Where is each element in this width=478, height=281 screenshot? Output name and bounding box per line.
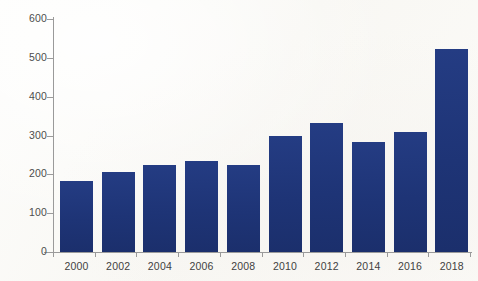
x-axis-tick bbox=[95, 252, 96, 257]
bar bbox=[60, 181, 93, 252]
x-axis-tick-label: 2014 bbox=[346, 260, 390, 272]
bar bbox=[435, 49, 468, 252]
x-axis-tick bbox=[220, 252, 221, 257]
bar bbox=[227, 165, 260, 252]
bar bbox=[352, 142, 385, 252]
bar bbox=[102, 172, 135, 252]
bar bbox=[394, 132, 427, 252]
bar bbox=[143, 165, 176, 252]
bar bbox=[310, 123, 343, 252]
x-axis-tick-label: 2016 bbox=[388, 260, 432, 272]
x-axis-tick-label: 2012 bbox=[305, 260, 349, 272]
y-axis-tick-label: 100 bbox=[11, 206, 47, 218]
x-axis-tick bbox=[136, 252, 137, 257]
x-axis-tick bbox=[262, 252, 263, 257]
bar bbox=[269, 136, 302, 252]
x-axis-line bbox=[44, 252, 472, 253]
x-axis-tick-label: 2000 bbox=[55, 260, 99, 272]
y-axis-tick-label: 600 bbox=[11, 12, 47, 24]
x-axis-tick bbox=[178, 252, 179, 257]
x-axis-tick bbox=[470, 252, 471, 257]
y-axis-tick-label: 300 bbox=[11, 129, 47, 141]
x-axis-tick-label: 2002 bbox=[96, 260, 140, 272]
y-axis-tick-label: 0 bbox=[11, 245, 47, 257]
x-axis-tick bbox=[345, 252, 346, 257]
x-axis-tick-label: 2010 bbox=[263, 260, 307, 272]
bar-chart-figure: 0100200300400500600 20002002200420062008… bbox=[0, 0, 478, 281]
x-axis-tick-label: 2004 bbox=[138, 260, 182, 272]
plot-area bbox=[53, 19, 470, 252]
x-axis-tick bbox=[387, 252, 388, 257]
x-axis-tick-label: 2006 bbox=[180, 260, 224, 272]
y-axis-tick-label: 200 bbox=[11, 167, 47, 179]
x-axis-tick bbox=[428, 252, 429, 257]
x-axis-tick-label: 2008 bbox=[221, 260, 265, 272]
bar bbox=[185, 161, 218, 252]
x-axis-tick-label: 2018 bbox=[430, 260, 474, 272]
x-axis-tick bbox=[303, 252, 304, 257]
y-axis-tick-label: 400 bbox=[11, 90, 47, 102]
y-axis-tick-label: 500 bbox=[11, 51, 47, 63]
x-axis-tick bbox=[53, 252, 54, 257]
